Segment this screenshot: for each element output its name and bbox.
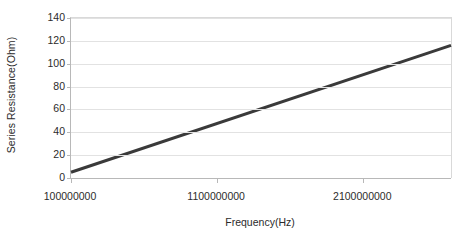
y-tick-mark	[67, 87, 71, 88]
y-tick-label: 80	[25, 80, 65, 92]
y-gridline	[71, 87, 451, 88]
y-tick-mark	[67, 41, 71, 42]
y-tick-label: 100	[25, 57, 65, 69]
y-gridline	[71, 155, 451, 156]
x-tick-mark	[71, 178, 72, 183]
y-tick-mark	[67, 132, 71, 133]
y-tick-label: 60	[25, 102, 65, 114]
y-tick-mark	[67, 155, 71, 156]
x-tick-label: 1100000000	[156, 190, 276, 202]
y-gridline	[71, 178, 451, 179]
x-axis-title: Frequency(Hz)	[70, 216, 450, 228]
x-tick-mark	[217, 178, 218, 183]
y-tick-label: 40	[25, 125, 65, 137]
y-gridline	[71, 109, 451, 110]
x-tick-label: 2100000000	[302, 190, 422, 202]
y-tick-mark	[67, 64, 71, 65]
y-tick-mark	[67, 18, 71, 19]
y-tick-label: 0	[25, 171, 65, 183]
y-tick-label: 20	[25, 148, 65, 160]
y-tick-label: 140	[25, 11, 65, 23]
y-axis-title: Series Resistance(Ohm)	[0, 0, 22, 190]
y-tick-mark	[67, 109, 71, 110]
x-tick-mark	[363, 178, 364, 183]
x-tick-label: 100000000	[10, 190, 130, 202]
y-axis-title-text: Series Resistance(Ohm)	[5, 37, 17, 154]
plot-area	[70, 17, 452, 178]
y-gridline	[71, 132, 451, 133]
y-gridline	[71, 64, 451, 65]
y-gridline	[71, 41, 451, 42]
series-line-layer	[71, 18, 451, 178]
y-gridline	[71, 18, 451, 19]
chart-figure: Series Resistance(Ohm) 02040608010012014…	[0, 0, 461, 245]
y-tick-label: 120	[25, 34, 65, 46]
